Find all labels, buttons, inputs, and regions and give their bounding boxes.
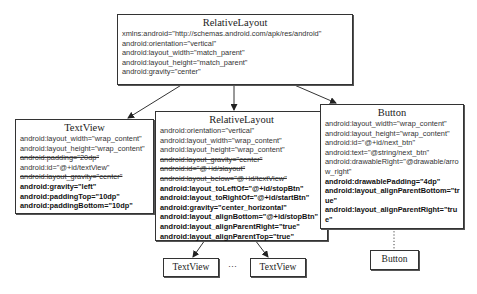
attribute-line: xmlns:android="http://schemas.android.co… — [118, 29, 352, 39]
attribute-list: android:orientation="vertical"android:la… — [156, 126, 327, 241]
attribute-line: android:orientation="vertical" — [156, 126, 327, 136]
attribute-line: android:id="@+id/slayout" — [156, 164, 327, 174]
attribute-line: android:gravity="left" — [16, 182, 153, 192]
attribute-line: android:layout_width="wrap_content" — [16, 134, 153, 144]
textview-node: TextView android:layout_width="wrap_cont… — [15, 119, 154, 214]
ellipsis: ··· — [228, 261, 237, 271]
attribute-line: android:layout_alignParentRight="true" — [156, 222, 327, 232]
attribute-line: android:layout_alignParentRight="true" — [321, 205, 463, 224]
attribute-line: android:layout_width="wrap_content" — [156, 136, 327, 146]
attribute-line: android:paddingBottom="10dp" — [16, 201, 153, 211]
attribute-line: android:layout_width="match_parent" — [118, 48, 352, 58]
node-title: Button — [321, 107, 463, 119]
attribute-line: android:layout_alignParentBottom="true" — [321, 186, 463, 205]
node-title: RelativeLayout — [156, 114, 327, 126]
attribute-line: android:layout_height="wrap_content" — [16, 144, 153, 154]
attribute-list: android:layout_width="wrap_content"andro… — [16, 134, 153, 211]
attribute-line: android:paddingTop="10dp" — [16, 192, 153, 202]
node-title: TextView — [16, 122, 153, 134]
button-node: Button android:layout_width="wrap_conten… — [320, 104, 464, 229]
edge-inner-textview-1 — [193, 240, 205, 257]
attribute-line: android:gravity="center_horizontal" — [156, 203, 327, 213]
node-title: RelativeLayout — [118, 17, 352, 29]
child-textview-node-2: TextView — [250, 258, 306, 277]
attribute-line: android:layout_width="wrap_content" — [321, 119, 463, 129]
attribute-line: android:drawableRight="@drawable/arrow_r… — [321, 157, 463, 176]
attribute-line: android:layout_gravity="center" — [156, 155, 327, 165]
attribute-line: android:layout_toRightOf="@+id/startBtn" — [156, 193, 327, 203]
child-button-node: Button — [370, 250, 419, 270]
attribute-line: android:id="@+id/next_btn" — [321, 138, 463, 148]
attribute-line: android:orientation="vertical" — [118, 39, 352, 49]
attribute-line: android:padding="20dp" — [16, 153, 153, 163]
attribute-line: android:layout_height="wrap_content" — [321, 129, 463, 139]
attribute-line: android:drawablePadding="4dp" — [321, 177, 463, 187]
edge-inner-textview-2 — [255, 240, 268, 257]
inner-relativelayout-node: RelativeLayout android:orientation="vert… — [155, 111, 328, 241]
attribute-line: android:layout_height="match_parent" — [118, 58, 352, 68]
attribute-line: android:layout_toLeftOf="@+id/stopBtn" — [156, 184, 327, 194]
attribute-line: android:gravity="center" — [118, 67, 352, 77]
attribute-line: android:layout_below="@+id/textView" — [156, 174, 327, 184]
child-textview-node-1: TextView — [163, 258, 219, 277]
attribute-line: android:id="@+id/textView" — [16, 163, 153, 173]
attribute-line: android:layout_gravity="center" — [16, 172, 153, 182]
attribute-list: android:layout_width="wrap_content"andro… — [321, 119, 463, 225]
attribute-line: android:text="@string/next_btn" — [321, 148, 463, 158]
attribute-line: android:layout_alignParentTop="true" — [156, 232, 327, 242]
attribute-line: android:layout_alignBottom="@+id/stopBtn… — [156, 212, 327, 222]
attribute-list: xmlns:android="http://schemas.android.co… — [118, 29, 352, 77]
root-relativelayout-node: RelativeLayout xmlns:android="http://sch… — [117, 14, 353, 85]
edge-root-button — [292, 84, 336, 103]
attribute-line: android:layout_height="wrap_content" — [156, 145, 327, 155]
